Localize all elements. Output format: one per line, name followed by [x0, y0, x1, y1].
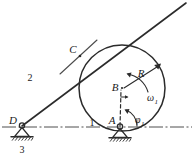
- link-2-bar: [22, 3, 186, 126]
- point-b-marker: [121, 87, 123, 89]
- label-point-b: B: [112, 81, 119, 93]
- right-angle-marker-arrow: [125, 95, 129, 99]
- label-omega-base: ω: [147, 92, 154, 103]
- label-omega-subscript: 1: [155, 98, 159, 106]
- pivot-a-hatching: [110, 138, 131, 141]
- label-phi: φ1: [135, 114, 145, 128]
- mechanism-diagram: A B C D 1 2 3 R ω1 φ1: [0, 0, 194, 158]
- label-point-d: D: [8, 114, 17, 126]
- label-link-2: 2: [28, 72, 33, 83]
- omega-arrowhead: [127, 73, 132, 78]
- diagram-canvas: A B C D 1 2 3 R ω1 φ1: [0, 0, 194, 158]
- label-radius: R: [137, 67, 145, 79]
- crank-ab-dashed: [120, 90, 121, 126]
- pivot-d-hatching: [12, 137, 33, 140]
- point-c-marker: [79, 55, 82, 58]
- label-link-3: 3: [20, 144, 25, 155]
- label-phi-subscript: 1: [141, 120, 145, 128]
- pivot-d-triangle: [15, 128, 30, 137]
- label-point-a: A: [108, 114, 116, 126]
- label-point-c: C: [69, 43, 77, 55]
- label-omega: ω1: [147, 92, 158, 106]
- label-link-1: 1: [90, 117, 95, 128]
